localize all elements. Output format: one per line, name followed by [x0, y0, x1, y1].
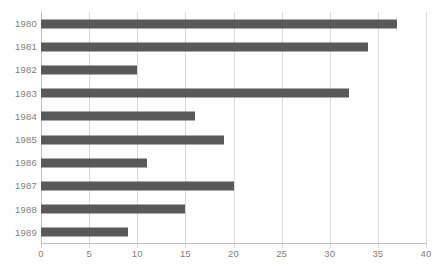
bar-band [41, 128, 426, 151]
x-tick-mark-25 [282, 244, 283, 248]
bar-band [41, 58, 426, 81]
bar-1985[interactable] [41, 135, 224, 144]
bar-1986[interactable] [41, 158, 147, 167]
bar-band [41, 174, 426, 197]
y-tick-label: 1987 [0, 174, 37, 197]
x-tick-label: 30 [310, 248, 350, 259]
x-tick-label: 5 [69, 248, 109, 259]
y-tick-label: 1984 [0, 105, 37, 128]
y-tick-label: 1981 [0, 35, 37, 58]
x-tick-label: 20 [214, 248, 254, 259]
bar-1988[interactable] [41, 205, 185, 214]
y-tick-label: 1986 [0, 151, 37, 174]
x-tick-mark-40 [426, 244, 427, 248]
x-tick-label: 40 [406, 248, 446, 259]
x-tick-label: 0 [21, 248, 61, 259]
x-tick-mark-15 [185, 244, 186, 248]
bar-1980[interactable] [41, 19, 397, 28]
plot-area [41, 12, 426, 244]
y-axis-labels: 1980198119821983198419851986198719881989 [0, 12, 37, 244]
x-tick-mark-35 [378, 244, 379, 248]
bar-1981[interactable] [41, 42, 368, 51]
y-tick-label: 1983 [0, 82, 37, 105]
x-tick-mark-0 [41, 244, 42, 248]
bar-band [41, 198, 426, 221]
bar-1983[interactable] [41, 89, 349, 98]
bar-band [41, 12, 426, 35]
x-tick-label: 10 [117, 248, 157, 259]
gridline-40 [426, 12, 427, 244]
bar-1987[interactable] [41, 181, 234, 190]
bar-chart: 1980198119821983198419851986198719881989… [0, 0, 446, 276]
x-tick-label: 25 [262, 248, 302, 259]
bar-band [41, 35, 426, 58]
x-tick-label: 35 [358, 248, 398, 259]
bar-band [41, 151, 426, 174]
bar-1989[interactable] [41, 228, 128, 237]
x-tick-mark-10 [137, 244, 138, 248]
x-tick-mark-30 [330, 244, 331, 248]
y-tick-label: 1980 [0, 12, 37, 35]
bar-1982[interactable] [41, 65, 137, 74]
bar-band [41, 221, 426, 244]
y-tick-label: 1989 [0, 221, 37, 244]
x-tick-mark-5 [89, 244, 90, 248]
bar-1984[interactable] [41, 112, 195, 121]
x-tick-label: 15 [165, 248, 205, 259]
bar-band [41, 105, 426, 128]
y-tick-label: 1982 [0, 58, 37, 81]
y-tick-label: 1985 [0, 128, 37, 151]
x-tick-mark-20 [234, 244, 235, 248]
x-axis-labels: 0510152025303540 [0, 248, 446, 266]
bar-band [41, 82, 426, 105]
y-tick-label: 1988 [0, 198, 37, 221]
